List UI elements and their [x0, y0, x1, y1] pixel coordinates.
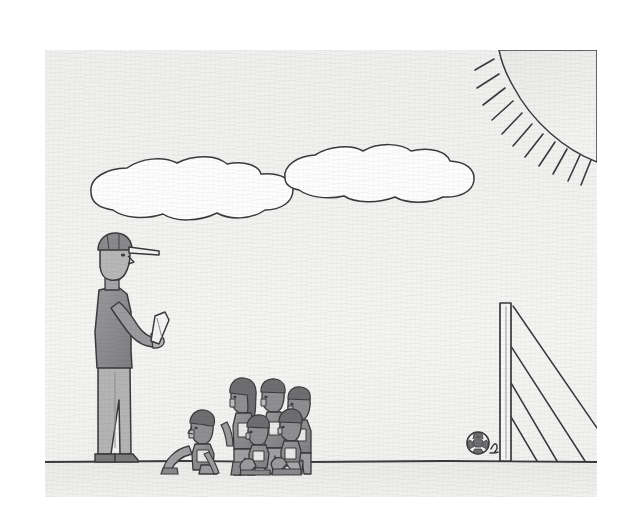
coach-eye — [121, 253, 125, 256]
sketch-svg — [45, 50, 597, 497]
coach-shoe-front — [115, 454, 138, 462]
sketch-scene — [0, 0, 631, 510]
ground-region — [45, 462, 597, 497]
paper-sheet — [45, 50, 597, 497]
artwork-canvas — [45, 50, 597, 497]
coach-shoe-back — [95, 454, 116, 462]
